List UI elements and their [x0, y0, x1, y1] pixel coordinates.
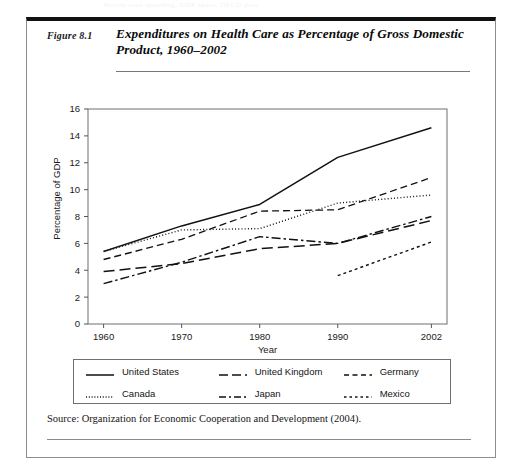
- x-tick-label: 1960: [93, 331, 114, 342]
- series-line-germany: [104, 178, 432, 260]
- legend-item-canada: Canada: [74, 382, 218, 404]
- series-line-canada: [104, 195, 432, 251]
- x-axis-label: Year: [258, 344, 277, 353]
- legend-row-2: Canada Japan Mexico: [74, 382, 450, 404]
- legend-swatch-solid-icon: [85, 366, 115, 376]
- legend-swatch-dash-dot-icon: [218, 388, 248, 398]
- x-tick-label: 1990: [327, 331, 348, 342]
- footer-divider: [47, 439, 471, 440]
- y-tick-label: 0: [75, 318, 80, 329]
- x-tick-label: 1980: [249, 331, 270, 342]
- series-line-united-kingdom: [104, 221, 432, 272]
- y-tick-label: 14: [69, 130, 80, 141]
- figure-box: Figure 8.1 Expenditures on Health Care a…: [26, 17, 496, 458]
- legend-swatch-long-dash-icon: [218, 366, 248, 376]
- legend-item-japan: Japan: [218, 382, 343, 404]
- series-line-mexico: [338, 242, 432, 276]
- chart-legend: United States United Kingdom Germany Can…: [73, 359, 451, 404]
- figure-number: Figure 8.1: [47, 30, 92, 41]
- legend-label: United Kingdom: [255, 366, 323, 377]
- y-tick-label: 8: [75, 211, 80, 222]
- legend-label: Mexico: [380, 388, 410, 399]
- figure-source: Source: Organization for Economic Cooper…: [47, 413, 477, 424]
- figure-title: Expenditures on Health Care as Percentag…: [116, 26, 476, 58]
- legend-swatch-dotted-icon: [85, 388, 115, 398]
- y-tick-label: 16: [69, 103, 80, 114]
- legend-item-mexico: Mexico: [343, 382, 450, 404]
- header-divider: [116, 71, 470, 72]
- legend-label: Canada: [122, 388, 155, 399]
- y-tick-label: 10: [69, 184, 80, 195]
- chart-area: Percentage of GDP 0246810121416196019701…: [27, 75, 495, 353]
- legend-swatch-dash-icon: [343, 366, 373, 376]
- legend-label: Japan: [255, 388, 281, 399]
- y-tick-label: 4: [75, 265, 80, 276]
- legend-swatch-fine-dash-icon: [343, 388, 373, 398]
- x-tick-label: 1970: [171, 331, 192, 342]
- figure-header: Figure 8.1 Expenditures on Health Care a…: [27, 21, 495, 73]
- y-tick-label: 2: [75, 292, 80, 303]
- page-bleedthrough-text: Health care spending, GDP share, OECD da…: [104, 1, 404, 10]
- legend-label: Germany: [380, 366, 419, 377]
- y-tick-label: 6: [75, 238, 80, 249]
- legend-item-united-kingdom: United Kingdom: [218, 360, 343, 382]
- y-tick-label: 12: [69, 157, 80, 168]
- legend-label: United States: [122, 366, 179, 377]
- legend-item-germany: Germany: [343, 360, 450, 382]
- x-tick-label: 2002: [421, 331, 442, 342]
- plot-frame: [88, 109, 447, 324]
- figure-page: Health care spending, GDP share, OECD da…: [0, 0, 522, 468]
- legend-row-1: United States United Kingdom Germany: [74, 360, 450, 382]
- line-chart-svg: 024681012141619601970198019902002Year: [27, 75, 495, 353]
- legend-item-united-states: United States: [74, 360, 218, 382]
